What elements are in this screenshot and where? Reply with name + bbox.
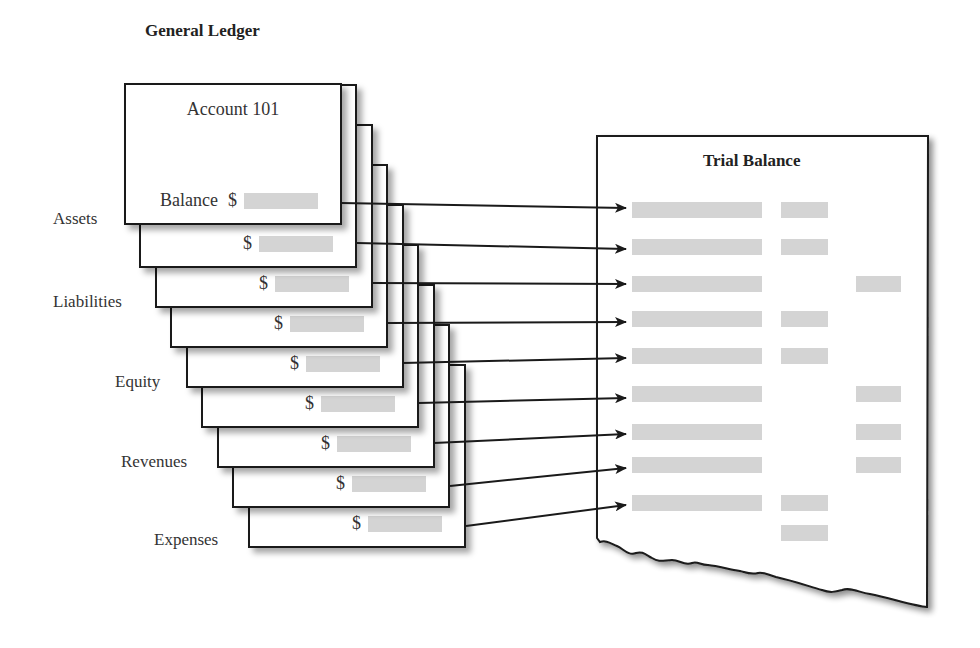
arrow-icon [466,505,626,526]
arrow-icon [357,243,626,249]
arrow-icon [388,322,626,323]
arrow-icon [434,434,626,443]
arrow-icon [403,358,626,363]
arrow-icon [372,283,626,284]
arrow-icon [450,468,626,486]
posting-arrows [0,0,980,648]
arrow-icon [341,203,626,208]
arrow-icon [419,398,626,403]
